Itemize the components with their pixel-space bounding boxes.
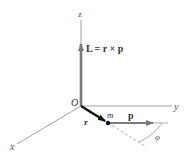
p-vector-label: p <box>128 110 134 121</box>
r-extension-line <box>108 123 145 146</box>
x-axis-label: x <box>9 141 15 152</box>
x-axis <box>17 106 81 144</box>
particle-m <box>106 121 110 125</box>
z-axis-label: z <box>78 9 82 19</box>
y-axis-label: y <box>173 101 179 112</box>
L-equation-label: L = r × p <box>86 43 124 54</box>
particle-label: m <box>107 110 114 120</box>
r-vector-label: r <box>84 117 88 127</box>
origin-label: O <box>71 97 78 108</box>
phi-angle-label: φ <box>155 132 160 142</box>
angular-momentum-diagram: z y x O L = r × p r m p φ <box>0 0 185 164</box>
